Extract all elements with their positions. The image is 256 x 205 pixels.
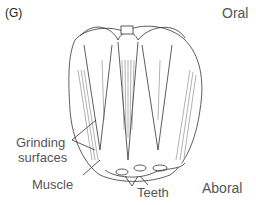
lantern-outline <box>69 26 202 181</box>
teeth-label: Teeth <box>137 186 169 199</box>
grinding-surfaces-label-line2: surfaces <box>18 151 67 164</box>
oral-label: Oral <box>222 6 248 20</box>
grinding-surfaces-label-line1: Grinding <box>16 136 65 149</box>
aboral-label: Aboral <box>202 181 242 195</box>
muscle-label: Muscle <box>32 178 73 191</box>
lantern-illustration <box>0 0 256 205</box>
